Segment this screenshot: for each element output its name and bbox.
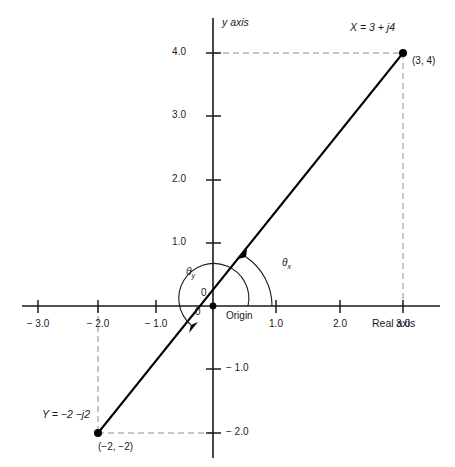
x-tick-label-3: 3.0 [396,319,410,329]
y-tick-label-1: 1.0 [172,237,186,247]
origin-label: Origin [226,311,253,321]
x-tick-label--2: − 2.0 [87,319,110,329]
point-marker-origin [210,303,217,310]
theta-x-subscript: x [287,263,291,270]
angle-zero-upper: 0 [201,288,207,298]
point-y-expression: Y = −2 −j2 [42,409,90,420]
point-y-expression-text: Y = −2 −j2 [42,408,90,420]
point-marker-x [399,49,407,57]
phasor-line [98,53,403,433]
vector-line-full [98,53,403,433]
theta-y-subscript: y [191,272,195,279]
x-tick-label--3: − 3.0 [27,319,50,329]
y-axis-title: y axis [222,17,249,28]
x-tick-label--1: − 1.0 [145,319,168,329]
point-y-coordinate: (−2, −2) [98,442,133,452]
theta-x-arc [246,257,272,306]
x-tick-label-2: 2.0 [333,319,347,329]
theta-y-label: θy [186,267,195,279]
point-x-coordinate: (3, 4) [412,56,435,66]
point-x-expression: X = 3 + j4 [350,22,395,33]
angle-zero-lower: 0 [195,307,201,317]
plot-canvas [0,0,455,467]
arrowhead-theta-y [189,322,198,333]
complex-plane-diagram: y axis Real axis 4.0 3.0 2.0 1.0 − 1.0 −… [0,0,455,467]
y-tick-label-4: 4.0 [172,47,186,57]
y-axis-title-text: y axis [222,16,249,28]
point-x-expression-text: X = 3 + j4 [350,21,395,33]
point-marker-y [94,429,102,437]
y-tick-label-2: 2.0 [172,174,186,184]
theta-x-label: θx [282,258,291,270]
y-tick-label--2: − 2.0 [226,427,249,437]
y-tick-label-3: 3.0 [172,110,186,120]
y-tick-label--1: − 1.0 [226,363,249,373]
x-tick-label-1: 1.0 [269,319,283,329]
